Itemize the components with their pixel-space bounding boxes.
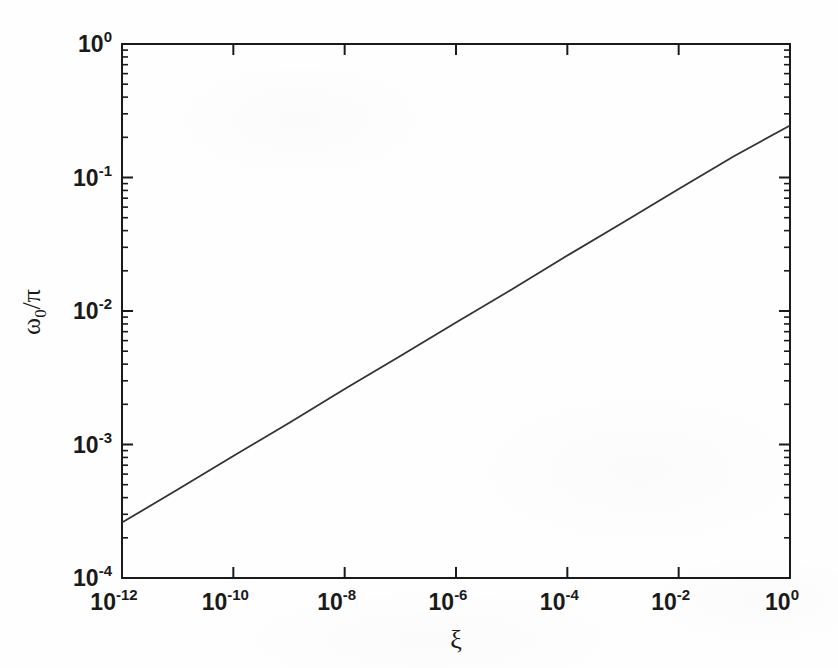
x-tick-label: 100 [765,586,799,615]
plot-frame [122,44,790,578]
x-tick-exponent: -6 [454,586,467,603]
x-tick-exponent: -12 [116,586,138,603]
y-axis-tick-labels: 10010-110-210-310-4 [73,28,113,591]
y-tick-exponent: -2 [99,295,112,312]
x-tick-exponent: -2 [677,586,690,603]
y-axis-ticks [122,44,790,578]
y-axis-title-suffix: /π [17,289,46,309]
y-axis-title-subscript: 0 [31,309,50,318]
y-axis-title-text: ω0/π [17,289,50,335]
y-tick-label: 10-2 [73,295,112,324]
x-axis-ticks [122,44,790,578]
x-tick-label: 10-6 [429,586,468,615]
y-tick-exponent: -4 [99,562,113,579]
figure-page: 10010-110-210-310-4 10-1210-1010-810-610… [0,0,838,668]
y-tick-exponent: -3 [99,429,112,446]
y-tick-exponent: 0 [104,28,112,45]
data-series-line [122,126,790,523]
x-tick-exponent: 0 [791,586,799,603]
y-tick-label: 10-3 [73,429,112,458]
x-tick-label: 10-4 [540,586,580,615]
y-tick-exponent: -1 [99,162,112,179]
x-tick-label: 10-12 [90,586,137,615]
y-axis-title: ω0/π [17,289,50,335]
x-tick-exponent: -4 [565,586,579,603]
x-axis-tick-labels: 10-1210-1010-810-610-410-2100 [90,586,799,615]
x-tick-label: 10-2 [651,586,690,615]
log-log-plot-figure: 10010-110-210-310-4 10-1210-1010-810-610… [0,0,838,668]
y-tick-label: 10-1 [73,162,112,191]
y-tick-label: 10-4 [73,562,113,591]
x-tick-exponent: -8 [343,586,356,603]
plot-svg: 10010-110-210-310-4 10-1210-1010-810-610… [0,0,838,668]
x-axis-title-text: ξ [450,625,462,654]
x-tick-label: 10-10 [202,586,249,615]
x-tick-label: 10-8 [317,586,356,615]
y-tick-label: 100 [78,28,112,57]
x-tick-exponent: -10 [227,586,249,603]
